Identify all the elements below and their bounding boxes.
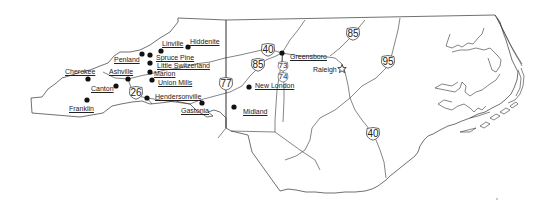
- city-dot-canton: [113, 83, 118, 88]
- capital-label-raleigh[interactable]: Raleigh: [313, 66, 337, 74]
- city-dot-ashville: [125, 76, 130, 81]
- highway-number: 77: [218, 77, 234, 90]
- city-label-greensboro[interactable]: Greensboro: [290, 53, 327, 61]
- city-label-hendersonville[interactable]: Hendersonville: [155, 93, 201, 101]
- highway-number: 74: [277, 72, 289, 82]
- city-dot-gastonia: [199, 100, 204, 105]
- highway-95: [285, 18, 400, 160]
- city-dot-union-mills: [149, 77, 154, 82]
- city-label-union-mills[interactable]: Union Mills: [158, 79, 192, 87]
- city-dot-midland: [231, 104, 236, 109]
- highway-shield-77: 77: [218, 77, 234, 91]
- city-dot-marion: [147, 69, 152, 74]
- city-label-midland[interactable]: Midland: [243, 108, 268, 116]
- city-label-spruce-pine[interactable]: Spruce Pine: [156, 54, 194, 62]
- city-label-little-switzerland[interactable]: Little Switzerland: [157, 62, 210, 70]
- state-outline: [31, 15, 518, 193]
- city-dot-little-switzerland: [147, 60, 152, 65]
- pamlico-sound: [435, 74, 500, 118]
- albemarle-sound: [446, 28, 501, 72]
- city-label-canton[interactable]: Canton: [91, 85, 114, 93]
- highway-shield-26: 26: [128, 86, 144, 100]
- city-label-franklin[interactable]: Franklin: [69, 105, 94, 113]
- city-label-marion[interactable]: Marion: [154, 70, 175, 78]
- city-label-gastonia[interactable]: Gastonia: [181, 107, 209, 115]
- city-dot-franklin: [84, 97, 89, 102]
- outer-banks: [495, 15, 524, 103]
- highway-shield-73: 73: [277, 61, 289, 72]
- north-carolina-map: [0, 0, 549, 207]
- city-dot-hendersonville: [144, 95, 149, 100]
- highway-number: 40: [365, 127, 381, 140]
- city-dot-cherokee: [85, 76, 90, 81]
- highway-number: 85: [345, 27, 361, 40]
- city-label-new-london[interactable]: New London: [255, 82, 294, 90]
- city-label-penland[interactable]: Penland: [114, 56, 140, 64]
- highway-shield-95: 95: [380, 55, 396, 69]
- highway-shield-85: 85: [345, 27, 361, 41]
- city-dot-new-london: [246, 84, 251, 89]
- city-label-hiddenite[interactable]: Hiddenite: [190, 38, 220, 46]
- speck: [496, 198, 498, 200]
- highway-shield-40: 40: [260, 43, 276, 57]
- city-dot-greensboro: [279, 50, 284, 55]
- highway-shield-40: 40: [365, 127, 381, 141]
- highway-shield-74: 74: [277, 72, 289, 83]
- city-dot-penland: [139, 51, 144, 56]
- highway-number: 73: [277, 61, 289, 71]
- barrier-islands: [460, 102, 518, 132]
- highway-number: 40: [260, 43, 276, 56]
- highway-shield-85: 85: [250, 58, 266, 72]
- city-label-linville[interactable]: Linville: [162, 40, 183, 48]
- city-label-cherokee[interactable]: Cherokee: [65, 68, 95, 76]
- city-dot-linville: [158, 48, 163, 53]
- city-label-ashville[interactable]: Ashville: [109, 68, 133, 76]
- highway-number: 26: [128, 86, 144, 99]
- highway-number: 95: [380, 55, 396, 68]
- highway-number: 85: [250, 58, 266, 71]
- city-dot-spruce-pine: [147, 52, 152, 57]
